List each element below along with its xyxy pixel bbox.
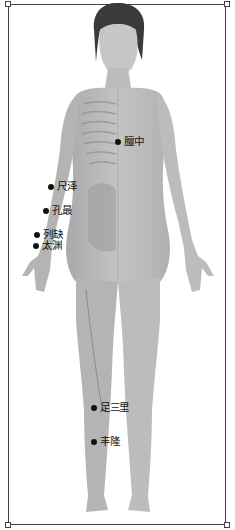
acupoint-label: 孔最: [52, 205, 71, 216]
acupoint-label: 足三里: [100, 402, 129, 413]
point-dot-icon: [34, 232, 40, 238]
left-leg: [76, 278, 118, 512]
acupoint-marker: 太渊: [33, 240, 61, 251]
acupoint-label: 丰隆: [100, 436, 119, 447]
point-dot-icon: [43, 208, 49, 214]
acupoint-label: 太渊: [42, 240, 61, 251]
acupoint-label: 尺泽: [57, 181, 76, 192]
acupoint-marker: 丰隆: [91, 436, 119, 447]
acupoint-marker: 膻中: [115, 136, 143, 147]
acupoint-marker: 孔最: [43, 205, 71, 216]
point-dot-icon: [33, 243, 39, 249]
intestine-overlay: [88, 183, 116, 251]
point-dot-icon: [91, 405, 97, 411]
point-dot-icon: [115, 139, 121, 145]
body-illustration: [0, 0, 235, 530]
head: [99, 24, 137, 74]
neck: [105, 68, 131, 88]
point-dot-icon: [48, 184, 54, 190]
right-leg: [118, 278, 160, 512]
point-dot-icon: [91, 439, 97, 445]
acupoint-marker: 足三里: [91, 402, 129, 413]
acupoint-marker: 尺泽: [48, 181, 76, 192]
acupoint-label: 膻中: [124, 136, 143, 147]
